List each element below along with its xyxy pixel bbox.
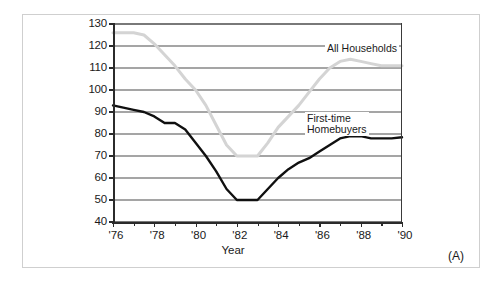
x-axis-title-text: Year (221, 244, 244, 256)
x-axis-tick-label: '90 (398, 229, 413, 241)
x-axis-minor-tick-mark (340, 222, 341, 226)
x-axis-tick-label: '86 (315, 229, 330, 241)
y-axis-tick-mark (109, 155, 113, 156)
x-axis-minor-tick-mark (299, 222, 300, 226)
panel-label: (A) (448, 249, 464, 263)
plot-right-border (401, 23, 402, 223)
x-axis-minor-tick-mark (134, 222, 135, 226)
x-axis-tick-mark (278, 222, 279, 227)
x-axis-minor-tick-mark (258, 222, 259, 226)
y-axis-tick-label: 40 (95, 215, 107, 227)
y-axis-tick-mark (109, 23, 113, 24)
x-axis-tick-mark (319, 222, 320, 227)
x-axis-tick-mark (154, 222, 155, 227)
x-axis-title: Year (0, 244, 494, 256)
figure-panel-a: 130120110100908070605040 '76'78'80'82'84… (0, 0, 494, 281)
x-axis-minor-tick-mark (175, 222, 176, 226)
y-axis-tick-label: 130 (88, 17, 107, 29)
x-axis-tick-mark (361, 222, 362, 227)
y-axis-tick-mark (109, 177, 113, 178)
y-axis-tick-label: 60 (95, 171, 107, 183)
y-axis-tick-label: 50 (95, 193, 107, 205)
y-axis-line (113, 23, 115, 223)
y-axis-tick-label: 110 (89, 61, 107, 73)
series-annotation-all-households: All Households (325, 42, 399, 55)
x-axis-tick-label: '76 (109, 229, 124, 241)
x-axis-tick-label: '78 (150, 229, 165, 241)
x-axis-tick-mark (237, 222, 238, 227)
y-axis-tick-label: 80 (95, 127, 107, 139)
series-annotation-line-2: Homebuyers (307, 124, 367, 135)
x-axis-tick-label: '88 (356, 229, 371, 241)
x-axis-tick-label: '80 (191, 229, 206, 241)
y-axis-tick-label: 100 (88, 83, 107, 95)
y-axis-tick-mark (109, 89, 113, 90)
x-axis-minor-tick-mark (216, 222, 217, 226)
x-axis-tick-mark (402, 222, 403, 227)
y-axis-tick-mark (109, 199, 113, 200)
series-annotation-first-time-homebuyers: First-time Homebuyers (305, 112, 369, 136)
y-axis-tick-label: 90 (95, 105, 107, 117)
y-axis-tick-label: 70 (95, 149, 107, 161)
y-axis-tick-mark (109, 111, 113, 112)
x-axis-tick-mark (113, 222, 114, 227)
y-axis-tick-mark (109, 67, 113, 68)
y-axis-tick-mark (109, 133, 113, 134)
x-axis-tick-label: '82 (232, 229, 247, 241)
x-axis-minor-tick-mark (381, 222, 382, 226)
y-axis-tick-mark (109, 45, 113, 46)
x-axis-tick-mark (196, 222, 197, 227)
x-axis-tick-label: '84 (274, 229, 289, 241)
y-axis-tick-label: 120 (88, 39, 107, 51)
